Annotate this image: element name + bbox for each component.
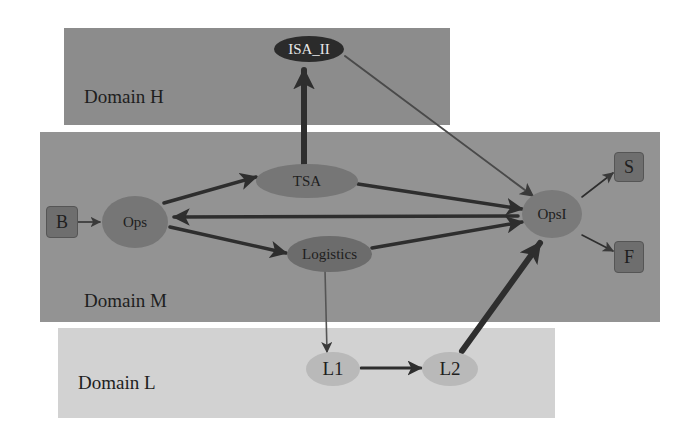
node-f[interactable]: F xyxy=(614,241,644,273)
node-s[interactable]: S xyxy=(614,152,644,182)
node-opsi-label: OpsI xyxy=(537,206,566,223)
node-ops-label: Ops xyxy=(123,214,147,231)
node-f-label: F xyxy=(624,247,634,268)
node-isa-ii-label: ISA_II xyxy=(288,41,330,58)
node-ops[interactable]: Ops xyxy=(102,196,168,248)
edge-ops-tsa xyxy=(164,177,256,203)
node-s-label: S xyxy=(624,157,634,178)
node-l2[interactable]: L2 xyxy=(422,352,478,386)
edge-ops-logistics xyxy=(170,227,286,253)
edge-opsi-s xyxy=(582,173,613,197)
node-l1-label: L1 xyxy=(322,358,343,380)
node-b-label: B xyxy=(56,212,68,233)
node-logistics-label: Logistics xyxy=(302,246,357,263)
node-tsa-label: TSA xyxy=(293,173,321,190)
edge-l2-opsi xyxy=(462,243,540,351)
node-b[interactable]: B xyxy=(46,206,78,238)
node-logistics[interactable]: Logistics xyxy=(287,236,372,272)
node-opsi[interactable]: OpsI xyxy=(522,190,582,238)
node-l1[interactable]: L1 xyxy=(306,352,360,386)
edge-isa-opsi xyxy=(345,56,533,196)
edge-opsi-ops xyxy=(174,216,518,217)
edge-logistics-l1 xyxy=(325,270,327,352)
node-l2-label: L2 xyxy=(439,358,460,380)
edge-logistics-opsi xyxy=(372,222,522,248)
node-isa-ii[interactable]: ISA_II xyxy=(274,36,344,62)
node-tsa[interactable]: TSA xyxy=(256,164,358,198)
edge-tsa-opsi xyxy=(358,184,522,209)
edge-opsi-f xyxy=(582,235,613,251)
